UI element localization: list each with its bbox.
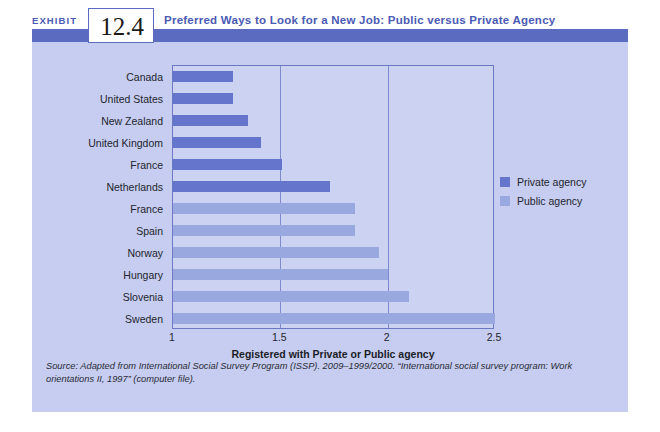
legend-label-private-agency: Private agency xyxy=(517,176,586,188)
bar-row xyxy=(173,242,493,264)
bar-row xyxy=(173,66,493,88)
bar xyxy=(173,181,330,192)
y-axis-label: France xyxy=(32,198,170,220)
bar xyxy=(173,313,495,324)
page-title: Preferred Ways to Look for a New Job: Pu… xyxy=(164,14,555,26)
plot-area xyxy=(172,65,494,329)
bar-row xyxy=(173,308,493,330)
y-axis-label: Norway xyxy=(32,242,170,264)
legend-item-private-agency: Private agency xyxy=(500,172,586,191)
x-axis-title: Registered with Private or Public agency xyxy=(172,348,494,360)
x-axis-tick-label: 1.5 xyxy=(272,331,287,343)
x-axis-tick-labels: 11.522.5 xyxy=(172,331,494,347)
bar-row xyxy=(173,132,493,154)
chart-legend: Private agency Public agency xyxy=(500,172,586,210)
source-note: Source: Adapted from International Socia… xyxy=(46,360,616,386)
y-axis-category-labels: CanadaUnited StatesNew ZealandUnited Kin… xyxy=(32,66,170,330)
bar xyxy=(173,247,379,258)
bar xyxy=(173,203,355,214)
exhibit-label: EXHIBIT xyxy=(32,15,77,26)
bar-row xyxy=(173,198,493,220)
legend-item-public-agency: Public agency xyxy=(500,191,586,210)
y-axis-label: Sweden xyxy=(32,308,170,330)
bar-row xyxy=(173,110,493,132)
bar xyxy=(173,159,282,170)
bar-row xyxy=(173,154,493,176)
bar xyxy=(173,93,233,104)
y-axis-label: United Kingdom xyxy=(32,132,170,154)
bar-series xyxy=(173,66,493,328)
bar xyxy=(173,71,233,82)
y-axis-label: Canada xyxy=(32,66,170,88)
legend-label-public-agency: Public agency xyxy=(517,195,582,207)
bar xyxy=(173,225,355,236)
bar xyxy=(173,269,388,280)
x-axis-tick-label: 2 xyxy=(384,331,390,343)
y-axis-label: New Zealand xyxy=(32,110,170,132)
bar xyxy=(173,291,409,302)
y-axis-label: Slovenia xyxy=(32,286,170,308)
legend-swatch-private-agency-icon xyxy=(500,177,510,187)
exhibit-number: 12.4 xyxy=(89,9,155,44)
y-axis-label: Netherlands xyxy=(32,176,170,198)
exhibit-figure: EXHIBIT 12.4 Preferred Ways to Look for … xyxy=(0,0,660,432)
y-axis-label: Hungary xyxy=(32,264,170,286)
legend-swatch-public-agency-icon xyxy=(500,196,510,206)
bar-row xyxy=(173,220,493,242)
exhibit-number-box: 12.4 xyxy=(88,8,154,43)
bar xyxy=(173,115,248,126)
bar xyxy=(173,137,261,148)
y-axis-label: United States xyxy=(32,88,170,110)
chart-panel: CanadaUnited StatesNew ZealandUnited Kin… xyxy=(32,42,628,412)
bar-row xyxy=(173,286,493,308)
x-axis-tick-label: 2.5 xyxy=(487,331,502,343)
bar-row xyxy=(173,264,493,286)
x-axis-tick-label: 1 xyxy=(169,331,175,343)
y-axis-label: Spain xyxy=(32,220,170,242)
bar-row xyxy=(173,176,493,198)
bar-row xyxy=(173,88,493,110)
y-axis-label: France xyxy=(32,154,170,176)
